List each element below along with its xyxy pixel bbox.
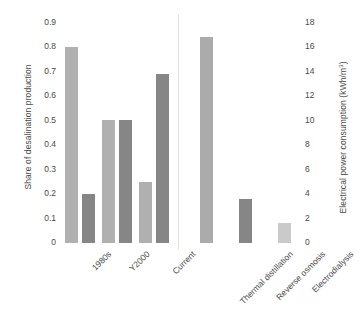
right-tick-8: 8 <box>305 140 331 149</box>
right-tick-16: 16 <box>305 42 331 51</box>
left-tick-0.7: 0.7 <box>30 67 56 76</box>
left-tick-0.1: 0.1 <box>30 214 56 223</box>
left-tick-0.5: 0.5 <box>30 116 56 125</box>
left-category-label-current: Current <box>170 249 197 276</box>
left-tick-0.9: 0.9 <box>30 18 56 27</box>
right-tick-10: 10 <box>305 116 331 125</box>
right-tick-4: 4 <box>305 189 331 198</box>
bar-y2000-membrane <box>119 120 132 243</box>
left-tick-0.2: 0.2 <box>30 189 56 198</box>
left-plot-area <box>60 22 172 243</box>
left-tick-0.6: 0.6 <box>30 91 56 100</box>
left-category-label-1980s: 1980s <box>90 249 113 272</box>
bar-current-thermal <box>139 182 152 243</box>
bar-y2000-thermal <box>102 120 115 243</box>
figure-canvas: Share of desalination production 0.9 0.8… <box>0 0 364 317</box>
left-y-axis-ticks: 0.9 0.8 0.7 0.6 0.5 0.4 0.3 0.2 0.1 0 <box>30 0 56 317</box>
right-y-axis-title-main: Electrical power consumption (kWh/m <box>338 68 348 214</box>
right-y-axis-title-exponent: 3 <box>338 64 344 67</box>
left-tick-0: 0 <box>30 238 56 247</box>
bar-thermal-distillation <box>200 37 213 243</box>
bar-1980s-thermal <box>65 47 78 243</box>
bar-1980s-membrane <box>82 194 95 243</box>
right-tick-0: 0 <box>305 238 331 247</box>
right-tick-6: 6 <box>305 165 331 174</box>
right-tick-18: 18 <box>305 18 331 27</box>
right-plot-area <box>190 22 302 243</box>
right-tick-2: 2 <box>305 214 331 223</box>
right-y-axis-title: Electrical power consumption (kWh/m3) <box>338 37 349 237</box>
left-tick-0.4: 0.4 <box>30 140 56 149</box>
bar-current-membrane <box>156 74 169 243</box>
panel-divider <box>178 14 179 250</box>
left-tick-0.3: 0.3 <box>30 165 56 174</box>
bar-reverse-osmosis <box>239 199 252 243</box>
right-tick-14: 14 <box>305 67 331 76</box>
left-tick-0.8: 0.8 <box>30 42 56 51</box>
left-category-label-y2000: Y2000 <box>127 249 151 273</box>
right-y-axis-ticks: 18 16 14 12 10 8 6 4 2 0 <box>305 0 331 317</box>
right-y-axis-title-tail: ) <box>338 61 348 64</box>
bar-electrodialysis <box>278 223 291 243</box>
right-tick-12: 12 <box>305 91 331 100</box>
right-category-label-thermal-distillation: Thermal distillation <box>238 249 295 306</box>
